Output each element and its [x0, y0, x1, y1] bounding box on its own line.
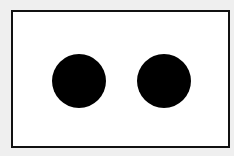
right-circle	[137, 54, 191, 108]
rectangle-frame	[11, 10, 230, 148]
left-circle	[52, 54, 106, 108]
diagram-canvas	[0, 0, 234, 156]
